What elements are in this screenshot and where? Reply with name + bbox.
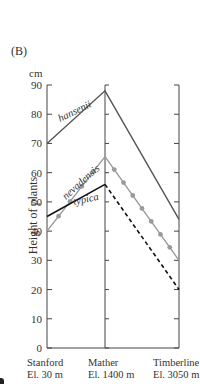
series-marker (140, 206, 145, 211)
category-name: Mather (88, 357, 134, 369)
series-marker (149, 219, 154, 224)
series-label-hansenii: hansenii (56, 98, 93, 124)
y-tick-label: 0 (37, 342, 43, 354)
y-tick-label: 50 (31, 196, 43, 208)
series-marker (112, 167, 117, 172)
series-marker (56, 214, 61, 219)
y-tick-label: 30 (31, 254, 43, 266)
category-elevation: El. 3050 m (153, 369, 199, 381)
x-category-stanford: Stanford El. 30 m (27, 357, 63, 381)
y-tick-label: 20 (31, 284, 43, 296)
x-category-mather: Mather El. 1400 m (88, 357, 134, 381)
corner-mark (0, 378, 4, 384)
line-chart: 0102030405060708090hanseniinevadensistyp… (0, 0, 200, 384)
y-tick-label: 90 (31, 79, 43, 91)
series-marker (167, 245, 172, 250)
y-tick-label: 10 (31, 313, 43, 325)
category-name: Stanford (27, 357, 63, 369)
category-name: Timberline (153, 357, 199, 369)
y-tick-label: 70 (31, 137, 43, 149)
series-line-nevadensis (47, 157, 179, 261)
series-marker (158, 232, 163, 237)
category-elevation: El. 30 m (27, 369, 63, 381)
y-tick-label: 60 (31, 167, 43, 179)
series-marker (121, 180, 126, 185)
x-category-timberline: Timberline El. 3050 m (153, 357, 199, 381)
category-elevation: El. 1400 m (88, 369, 134, 381)
y-tick-label: 40 (31, 225, 43, 237)
y-tick-label: 80 (31, 108, 43, 120)
series-marker (130, 193, 135, 198)
